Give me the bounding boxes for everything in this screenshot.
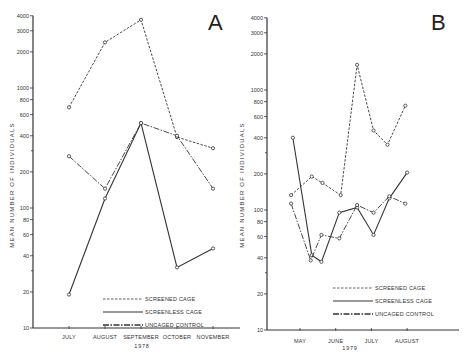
y-tick-label: 4000 [251,15,263,21]
data-point-marker [321,181,324,184]
y-tick-label: 60 [23,232,29,238]
y-tick-label: 10 [257,327,263,333]
y-tick-label: 2000 [251,51,263,57]
data-point-marker [386,143,389,146]
legend-entry: SCREENLESS CAGE [145,309,202,315]
x-tick-label: AUGUST [93,334,118,340]
y-tick-label: 1000 [17,85,29,91]
x-axis-year-b: 1979 [342,345,357,351]
data-point-marker [338,237,341,240]
panel-a: A MEAN NUMBER OF INDIVIDUALS 10204060801… [9,10,240,349]
legend-a: SCREENED CAGESCREENLESS CAGEUNCAGED CONT… [103,296,204,328]
y-axis-a: 1020406080100200400600800100020003000400… [17,13,33,331]
legend-b: SCREENED CAGESCREENLESS CAGEUNCAGED CONT… [333,285,434,317]
y-tick-label: 800 [254,99,263,105]
data-point-marker [320,233,323,236]
data-point-marker [372,211,375,214]
data-point-marker [175,134,178,137]
x-axis-b: MAYJUNEJULYAUGUST [267,328,459,344]
data-point-marker [356,63,359,66]
series-screened-cage [67,18,214,150]
y-tick-label: 40 [257,255,263,261]
legend-entry: UNCAGED CONTROL [375,311,434,317]
series-uncaged-control [67,121,214,190]
x-axis-year-a: 1978 [134,343,149,349]
panel-letter-b: B [431,10,446,35]
x-tick-label: OCTOBER [163,334,192,340]
data-point-marker [139,121,142,124]
series-b [289,63,408,263]
data-point-marker [404,202,407,205]
data-point-marker [320,260,323,263]
data-point-marker [372,233,375,236]
y-tick-label: 600 [254,114,263,120]
data-point-marker [338,211,341,214]
data-point-marker [139,18,142,21]
y-tick-label: 20 [23,289,29,295]
data-point-marker [67,106,70,109]
y-axis-label-b: MEAN NUMBER OF INDIVIDUALS [239,122,245,248]
panel-b: B MEAN NUMBER OF INDIVIDUALS 10204060801… [239,10,459,351]
data-point-marker [175,266,178,269]
data-point-marker [103,41,106,44]
y-tick-label: 200 [254,171,263,177]
y-tick-label: 80 [23,217,29,223]
x-axis-a: JULYAUGUSTSEPTEMBEROCTOBERNOVEMBER [33,326,240,340]
data-point-marker [309,259,312,262]
y-tick-label: 20 [257,291,263,297]
y-tick-label: 400 [20,133,29,139]
y-tick-label: 10 [23,325,29,331]
data-point-marker [291,136,294,139]
data-point-marker [103,197,106,200]
y-tick-label: 400 [254,135,263,141]
y-tick-label: 60 [257,234,263,240]
data-point-marker [103,187,106,190]
legend-entry: UNCAGED CONTROL [145,322,204,328]
data-point-marker [211,147,214,150]
y-tick-label: 1000 [251,87,263,93]
x-tick-label: AUGUST [395,338,420,344]
series-screenless-cage [67,121,214,296]
y-tick-label: 3000 [251,30,263,36]
y-tick-label: 200 [20,169,29,175]
x-tick-label: NOVEMBER [196,334,229,340]
legend-entry: SCREENED CAGE [145,296,195,302]
x-tick-label: MAY [294,338,306,344]
x-tick-label: JUNE [328,338,343,344]
data-point-marker [67,293,70,296]
data-point-marker [356,203,359,206]
y-tick-label: 600 [20,112,29,118]
data-point-marker [289,194,292,197]
data-point-marker [211,187,214,190]
y-tick-label: 2000 [17,49,29,55]
x-tick-label: JULY [364,338,378,344]
y-axis-b: 1020406080100200400600800100020003000400… [251,15,267,333]
data-point-marker [289,202,292,205]
data-point-marker [339,194,342,197]
y-tick-label: 800 [20,97,29,103]
panel-letter-a: A [208,10,223,35]
legend-entry: SCREENLESS CAGE [375,298,432,304]
data-point-marker [406,171,409,174]
data-point-marker [404,104,407,107]
x-tick-label: SEPTEMBER [123,334,159,340]
series-screenless-cage [291,136,408,263]
y-tick-label: 40 [23,253,29,259]
x-tick-label: JULY [62,334,76,340]
data-point-marker [211,247,214,250]
series-screened-cage [289,63,406,196]
y-tick-label: 4000 [17,13,29,19]
y-tick-label: 80 [257,219,263,225]
y-tick-label: 100 [254,207,263,213]
y-tick-label: 100 [20,205,29,211]
y-tick-label: 3000 [17,28,29,34]
figure: A MEAN NUMBER OF INDIVIDUALS 10204060801… [0,0,470,361]
data-point-marker [310,175,313,178]
data-point-marker [67,155,70,158]
series-a [67,18,214,296]
legend-entry: SCREENED CAGE [375,285,425,291]
data-point-marker [388,195,391,198]
y-axis-label-a: MEAN NUMBER OF INDIVIDUALS [9,122,15,248]
data-point-marker [372,129,375,132]
